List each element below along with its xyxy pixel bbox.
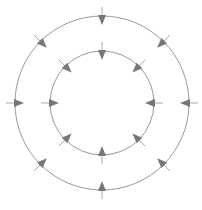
- inner-circle-inward-arrow-icon: [145, 99, 163, 107]
- inner-circle-inward-arrow-icon: [41, 99, 59, 107]
- arrows-layer: [6, 7, 198, 199]
- inner-circle-inward-arrow-icon: [98, 146, 106, 164]
- outer-circle-inward-arrow-icon: [6, 99, 24, 107]
- outer-circle-inward-arrow-icon: [98, 7, 106, 25]
- inner-circle-inward-arrow-icon: [98, 42, 106, 60]
- outer-circle-inward-arrow-icon: [180, 99, 198, 107]
- concentric-circles-diagram: [0, 0, 202, 210]
- outer-circle-inward-arrow-icon: [98, 181, 106, 199]
